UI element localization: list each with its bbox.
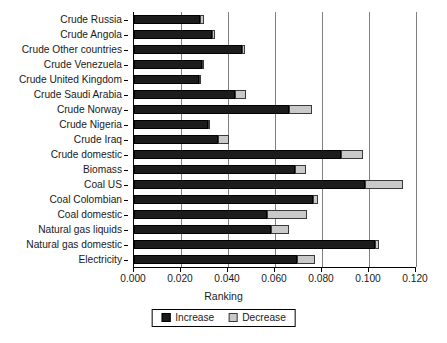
legend-entry-increase: Increase — [161, 312, 214, 323]
bar-segment-increase — [134, 120, 208, 129]
bar-segment-increase — [134, 165, 295, 174]
y-axis-label: Crude Angola — [60, 29, 122, 40]
bar-segment-increase — [134, 195, 313, 204]
bar-segment-decrease — [267, 210, 307, 219]
y-axis-tick — [124, 125, 128, 126]
bar-segment-decrease — [313, 195, 319, 204]
bar-segment-increase — [134, 240, 375, 249]
y-axis-label: Coal US — [84, 179, 122, 190]
bar-segment-increase — [134, 225, 271, 234]
decrease-swatch-icon — [228, 313, 237, 322]
bar-segment-increase — [134, 210, 267, 219]
y-axis-tick — [124, 215, 128, 216]
y-axis-label: Electricity — [78, 254, 122, 265]
y-axis-tick — [124, 80, 128, 81]
bar-row — [134, 15, 204, 24]
bar-row — [134, 45, 245, 54]
bar-row — [134, 240, 379, 249]
bar-row — [134, 120, 210, 129]
y-axis-label: Crude Russia — [60, 14, 122, 25]
y-axis-tick — [124, 245, 128, 246]
x-axis-tick — [133, 267, 134, 272]
bar-segment-increase — [134, 90, 235, 99]
y-axis-tick — [124, 35, 128, 36]
bar-segment-increase — [134, 60, 202, 69]
y-axis-label: Crude Norway — [57, 104, 122, 115]
x-axis-tick-label: 0.020 — [167, 273, 193, 285]
bar-row — [134, 180, 403, 189]
y-axis-tick — [124, 65, 128, 66]
y-axis-tick — [124, 140, 128, 141]
x-axis-tick-label: 0.100 — [355, 273, 381, 285]
legend-label-increase: Increase — [175, 312, 214, 323]
bar-segment-increase — [134, 15, 200, 24]
x-axis-tick-labels: 0.0000.0200.0400.0600.0800.1000.120 — [0, 273, 447, 287]
x-axis-tick-label: 0.040 — [214, 273, 240, 285]
y-axis-tick — [124, 50, 128, 51]
bar-row — [134, 135, 229, 144]
y-axis-label: Crude Iraq — [74, 134, 122, 145]
bar-row — [134, 90, 246, 99]
y-axis-label: Coal Colombian — [50, 194, 122, 205]
bar-row — [134, 105, 312, 114]
bar-segment-decrease — [271, 225, 289, 234]
bar-segment-increase — [134, 255, 297, 264]
legend-label-decrease: Decrease — [242, 312, 286, 323]
y-axis-tick — [124, 200, 128, 201]
bar-segment-decrease — [297, 255, 315, 264]
increase-swatch-icon — [161, 313, 170, 322]
y-axis-tick — [124, 110, 128, 111]
bar-row — [134, 165, 306, 174]
bar-row — [134, 150, 363, 159]
plot-area — [133, 12, 416, 268]
x-axis-tick — [180, 267, 181, 272]
bar-row — [134, 210, 307, 219]
x-axis-title: Ranking — [0, 290, 447, 302]
bar-segment-decrease — [341, 150, 363, 159]
bar-segment-decrease — [235, 90, 246, 99]
bar-segment-decrease — [218, 135, 229, 144]
bar-segment-increase — [134, 135, 218, 144]
y-axis-label: Coal domestic — [57, 209, 122, 220]
x-axis-tick — [227, 267, 228, 272]
x-axis-ticks — [133, 267, 416, 272]
bar-segment-increase — [134, 180, 365, 189]
x-axis-tick — [321, 267, 322, 272]
bar-segment-decrease — [200, 15, 205, 24]
bar-row — [134, 75, 201, 84]
bar-segment-increase — [134, 150, 341, 159]
y-axis-label: Crude domestic — [51, 149, 122, 160]
gridline — [416, 12, 417, 267]
x-axis-tick-label: 0.060 — [261, 273, 287, 285]
y-axis-tick — [124, 230, 128, 231]
bar-segment-increase — [134, 75, 199, 84]
x-axis-tick — [274, 267, 275, 272]
y-axis-label: Crude Other countries — [22, 44, 122, 55]
y-axis-label: Crude United Kingdom — [19, 74, 122, 85]
bar-segment-decrease — [199, 75, 202, 84]
x-axis-tick-label: 0.080 — [308, 273, 334, 285]
bar-segment-decrease — [202, 60, 204, 69]
bar-segment-decrease — [208, 120, 210, 129]
bar-segment-decrease — [212, 30, 215, 39]
y-axis-label: Natural gas liquids — [38, 224, 122, 235]
x-axis-tick-label: 0.000 — [120, 273, 146, 285]
bar-segment-decrease — [365, 180, 403, 189]
y-axis-tick — [124, 155, 128, 156]
bar-segment-decrease — [242, 45, 246, 54]
ranking-bar-chart: Crude RussiaCrude AngolaCrude Other coun… — [0, 0, 447, 343]
bar-row — [134, 30, 215, 39]
x-axis-tick-label: 0.120 — [402, 273, 428, 285]
y-axis-label: Crude Saudi Arabia — [34, 89, 122, 100]
y-axis-label: Biomass — [83, 164, 122, 175]
x-axis-tick — [415, 267, 416, 272]
chart-legend: Increase Decrease — [151, 309, 296, 327]
bar-row — [134, 195, 318, 204]
y-axis-label: Natural gas domestic — [26, 239, 122, 250]
y-axis-tick — [124, 20, 128, 21]
y-axis-tick — [124, 185, 128, 186]
y-axis-labels: Crude RussiaCrude AngolaCrude Other coun… — [0, 12, 128, 267]
bar-rows — [134, 12, 416, 267]
x-axis-tick — [368, 267, 369, 272]
y-axis-tick — [124, 170, 128, 171]
